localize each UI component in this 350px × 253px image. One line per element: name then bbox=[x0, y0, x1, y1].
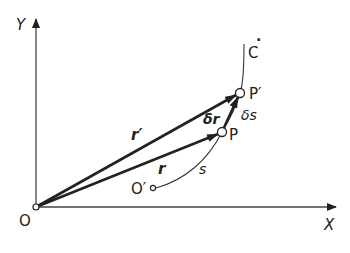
vector-r-label: r bbox=[158, 160, 167, 178]
y-axis-label: Y bbox=[16, 16, 27, 34]
point-p-prime bbox=[236, 89, 245, 98]
vector-delta-r-label: δr bbox=[203, 111, 221, 127]
curve-c-dot: · bbox=[256, 32, 261, 48]
arc-delta-s-label: δs bbox=[241, 107, 257, 123]
arc-s-label: s bbox=[199, 161, 206, 177]
vector-displacement-diagram: Y X O C · P′ P O′ r′ r δr δs s bbox=[0, 0, 350, 253]
vector-r-prime-label: r′ bbox=[131, 126, 142, 144]
point-p-prime-label: P′ bbox=[249, 85, 262, 103]
point-p-label: P bbox=[229, 126, 238, 144]
point-o-prime-label: O′ bbox=[131, 180, 147, 198]
x-axis-label: X bbox=[323, 216, 335, 234]
origin-label: O bbox=[19, 212, 31, 230]
origin-point bbox=[33, 204, 39, 210]
point-o-prime bbox=[150, 185, 155, 190]
point-p bbox=[218, 128, 227, 137]
